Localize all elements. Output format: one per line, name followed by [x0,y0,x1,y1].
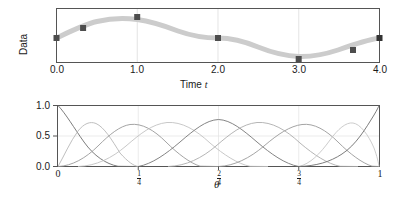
basis-ytick-0: 0.0 [22,161,50,172]
top-xtick-4: 4.0 [365,64,395,75]
top-xtick-1: 1.0 [122,64,152,75]
data-fit-panel: Data 0.0 1.0 2.0 3.0 4.0 Ti [0,0,399,98]
basis-xtick-1: 1 [371,168,389,179]
basis-xtick-quarter: 14 [130,169,148,187]
top-xtick-0: 0.0 [42,64,72,75]
basis-plot-svg [0,98,399,207]
top-xlabel-var: t [205,79,208,90]
figure-root: Data 0.0 1.0 2.0 3.0 4.0 Ti [0,0,399,207]
basis-xtick-threequarter: 34 [290,169,308,187]
basis-ytick-05: 0.5 [22,130,50,141]
top-xtick-2: 2.0 [203,64,233,75]
top-xtick-3: 3.0 [284,64,314,75]
basis-panel: 1.0 0.5 0.0 0 14 24 34 1 θ [0,98,399,207]
basis-xtick-0: 0 [49,168,67,179]
top-xlabel-text: Time [180,79,205,90]
basis-xlabel: θ [214,178,219,190]
basis-ytick-1: 1.0 [22,100,50,111]
top-xlabel: Time t [180,79,207,90]
